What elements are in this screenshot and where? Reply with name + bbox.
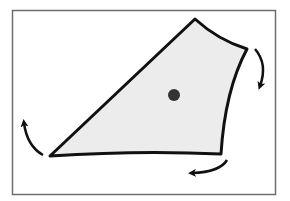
center-of-rotation-dot: [168, 89, 180, 101]
bottom-rotation-arrow-icon: [192, 160, 227, 173]
right-rotation-arrow-icon: [255, 49, 263, 86]
quadrilateral-shape: [50, 19, 247, 156]
left-rotation-arrow-icon: [24, 123, 43, 155]
rotation-diagram: [0, 0, 290, 201]
